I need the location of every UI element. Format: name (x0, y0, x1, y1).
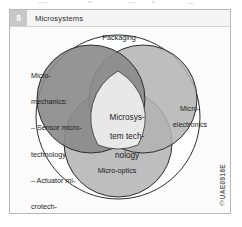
figure-frame: 8 Microsystems Packaging Micro- mechanic… (9, 9, 231, 214)
figure-header: 8 Microsystems (10, 10, 230, 27)
page-top-margin (0, 0, 242, 9)
imprint-code: UAE0916E (219, 164, 226, 199)
scan-speck (88, 1, 92, 3)
scan-speck (188, 3, 194, 4)
venn-svg (10, 27, 230, 213)
copyright-icon: © (220, 201, 225, 208)
venn-diagram: Packaging Micro- mechanics: – Sensor mic… (10, 27, 230, 213)
scan-speck (152, 1, 155, 3)
figure-title: Microsystems (27, 10, 230, 26)
figure-number-badge: 8 (10, 10, 27, 26)
scan-speck (38, 2, 47, 3)
scan-speck (128, 2, 135, 3)
page-root: 8 Microsystems Packaging Micro- mechanic… (0, 0, 242, 227)
imprint-block: UAE0916E © (216, 142, 228, 208)
